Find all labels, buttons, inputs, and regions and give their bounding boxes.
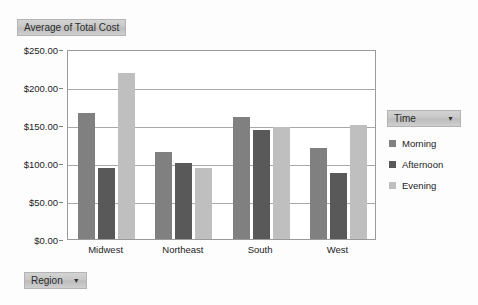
chevron-down-icon: ▼	[73, 277, 80, 284]
bar[interactable]	[233, 117, 250, 239]
y-axis-tick-mark	[59, 88, 63, 89]
y-axis-tick-mark	[59, 126, 63, 127]
bar[interactable]	[155, 152, 172, 239]
y-axis-tick-label: $50.00	[29, 197, 58, 208]
bar-group	[223, 51, 300, 239]
bar-group	[145, 51, 222, 239]
bar[interactable]	[118, 73, 135, 239]
y-axis-tick-mark	[59, 164, 63, 165]
bar[interactable]	[175, 163, 192, 239]
legend-swatch-icon	[389, 140, 396, 147]
x-axis-category-label: Midwest	[88, 244, 123, 255]
y-axis-tick-label: $0.00	[34, 235, 58, 246]
plot-area	[67, 50, 376, 240]
chart-screenshot: Average of Total Cost $0.00$50.00$100.00…	[0, 0, 478, 305]
legend-item-label: Morning	[402, 138, 436, 149]
bar[interactable]	[350, 125, 367, 239]
y-axis-tick-label: $200.00	[24, 83, 58, 94]
region-field-label: Region	[31, 274, 63, 288]
region-field-button[interactable]: Region ▼	[24, 272, 87, 289]
y-axis-tick-mark	[59, 50, 63, 51]
legend-field-label: Time	[394, 112, 416, 126]
bar-group	[300, 51, 377, 239]
legend-item-label: Evening	[402, 180, 436, 191]
legend-item-label: Afternoon	[402, 159, 443, 170]
bar[interactable]	[195, 168, 212, 239]
x-axis-category-label: Northeast	[162, 244, 203, 255]
pivot-value-field-button[interactable]: Average of Total Cost	[17, 19, 126, 36]
x-axis-category-label: West	[327, 244, 348, 255]
bar[interactable]	[78, 113, 95, 239]
legend-item: Evening	[389, 175, 475, 196]
bar[interactable]	[98, 168, 115, 239]
y-axis-tick-label: $100.00	[24, 159, 58, 170]
legend-item: Morning	[389, 133, 475, 154]
pivot-value-field-label: Average of Total Cost	[24, 21, 119, 35]
y-axis-tick-mark	[59, 202, 63, 203]
chart-legend: MorningAfternoonEvening	[389, 133, 475, 196]
bar[interactable]	[330, 173, 347, 239]
bar[interactable]	[273, 127, 290, 239]
bar-group	[68, 51, 145, 239]
legend-item: Afternoon	[389, 154, 475, 175]
y-axis-tick-label: $250.00	[24, 45, 58, 56]
legend-swatch-icon	[389, 182, 396, 189]
bar[interactable]	[310, 148, 327, 239]
legend-swatch-icon	[389, 161, 396, 168]
bar[interactable]	[253, 130, 270, 239]
chevron-down-icon: ▼	[447, 115, 454, 122]
y-axis: $0.00$50.00$100.00$150.00$200.00$250.00	[0, 50, 63, 240]
y-axis-tick-mark	[59, 240, 63, 241]
x-axis-category-label: South	[248, 244, 273, 255]
legend-field-button[interactable]: Time ▼	[387, 110, 461, 127]
y-axis-tick-label: $150.00	[24, 121, 58, 132]
